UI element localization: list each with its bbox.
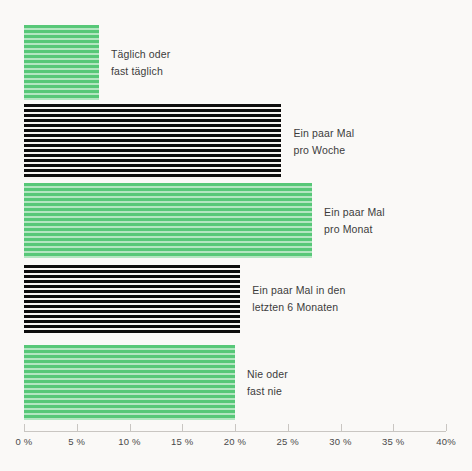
x-axis-tick-label-15: 15 % bbox=[171, 436, 193, 447]
x-axis-tick-label-40: 40% bbox=[436, 436, 456, 447]
bar-1[interactable] bbox=[24, 25, 99, 100]
x-axis-tick-label-25: 25 % bbox=[277, 436, 299, 447]
bar-label-3: Ein paar Mal pro Monat bbox=[324, 204, 385, 238]
bar-4[interactable] bbox=[24, 265, 240, 333]
bar-2[interactable] bbox=[24, 104, 281, 179]
bar-label-5: Nie oder fast nie bbox=[247, 366, 288, 400]
bar-row: Ein paar Mal pro Woche bbox=[0, 104, 472, 179]
x-axis-tick-label-10: 10 % bbox=[118, 436, 140, 447]
bar-3[interactable] bbox=[24, 183, 312, 258]
bar-row: Ein paar Mal in den letzten 6 Monaten bbox=[0, 265, 472, 333]
x-axis-tick-label-20: 20 % bbox=[224, 436, 246, 447]
bar-label-1: Täglich oder fast täglich bbox=[111, 46, 171, 80]
bar-row: Ein paar Mal pro Monat bbox=[0, 183, 472, 258]
x-axis-tick-label-0: 0 % bbox=[16, 436, 33, 447]
bar-5[interactable] bbox=[24, 345, 235, 420]
bar-chart: Täglich oder fast täglichEin paar Mal pr… bbox=[0, 0, 472, 471]
plot-area: Täglich oder fast täglichEin paar Mal pr… bbox=[0, 0, 472, 430]
x-axis-tick-label-30: 30 % bbox=[329, 436, 351, 447]
bar-row: Täglich oder fast täglich bbox=[0, 25, 472, 100]
bar-label-4: Ein paar Mal in den letzten 6 Monaten bbox=[252, 282, 345, 316]
x-axis-tick-label-35: 35 % bbox=[382, 436, 404, 447]
x-axis-tick-label-5: 5 % bbox=[68, 436, 85, 447]
bar-row: Nie oder fast nie bbox=[0, 345, 472, 420]
x-axis-line bbox=[24, 431, 446, 432]
bar-label-2: Ein paar Mal pro Woche bbox=[293, 125, 354, 159]
